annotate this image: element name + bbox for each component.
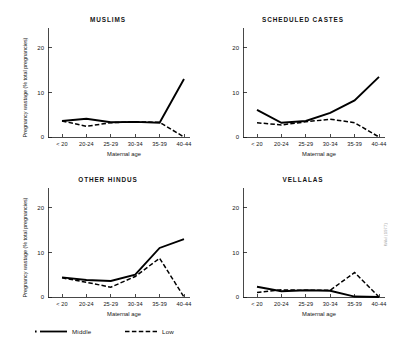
x-tick-label: < 20 [56, 301, 67, 307]
plot-area-muslims: 01020< 2020-2425-2930-3435-3940-44Matern… [18, 16, 198, 166]
x-axis-title: Maternal age [107, 151, 141, 157]
legend-item-middle: Middle [34, 327, 91, 336]
y-tick-label: 20 [232, 45, 239, 51]
y-axis-title: Pregnancy wastage (% total pregnancies) [22, 197, 28, 297]
series-line-low [62, 121, 184, 137]
x-tick-label: 35-39 [152, 141, 167, 147]
plot-area-scheduled-castes: 01020< 2020-2425-2930-3435-3940-44Matern… [213, 16, 393, 166]
x-tick-label: 20-24 [79, 301, 94, 307]
legend-label-low: Low [162, 328, 174, 335]
x-tick-label: 25-29 [103, 141, 118, 147]
y-tick-label: 0 [236, 134, 240, 140]
chart-panel-scheduled-castes: SCHEDULED CASTES 01020< 2020-2425-2930-3… [213, 16, 393, 166]
x-tick-label: 30-34 [128, 141, 143, 147]
y-tick-label: 0 [41, 294, 45, 300]
series-line-low [257, 119, 379, 137]
y-axis-title: Pregnancy wastage (% total pregnancies) [22, 37, 28, 137]
x-tick-label: 25-29 [103, 301, 118, 307]
y-tick-label: 10 [232, 250, 239, 256]
y-tick-label: 10 [37, 90, 44, 96]
x-tick-label: 40-44 [177, 141, 192, 147]
y-tick-label: 10 [37, 250, 44, 256]
x-tick-label: 30-34 [128, 301, 143, 307]
legend-item-low: Low [124, 327, 174, 336]
legend-swatch-low [124, 327, 158, 336]
legend-label-middle: Middle [72, 328, 91, 335]
x-tick-label: 35-39 [347, 301, 362, 307]
x-tick-label: 40-44 [372, 141, 387, 147]
y-tick-label: 20 [37, 205, 44, 211]
x-axis-title: Maternal age [302, 311, 336, 317]
x-tick-label: 25-29 [298, 301, 313, 307]
legend-swatch-middle [34, 327, 68, 336]
plot-area-other-hindus: 01020< 2020-2425-2930-3435-3940-44Matern… [18, 176, 198, 326]
x-tick-label: 25-29 [298, 141, 313, 147]
series-line-middle [62, 79, 184, 123]
legend: Middle Low [34, 327, 264, 345]
x-tick-label: 30-34 [323, 141, 338, 147]
series-line-middle [257, 77, 379, 123]
y-tick-label: 10 [232, 90, 239, 96]
figure-canvas: MUSLIMS 01020< 2020-2425-2930-3435-3940-… [0, 0, 417, 355]
y-tick-label: 0 [41, 134, 45, 140]
x-tick-label: 20-24 [79, 141, 94, 147]
chart-panel-muslims: MUSLIMS 01020< 2020-2425-2930-3435-3940-… [18, 16, 198, 166]
x-axis-title: Maternal age [107, 311, 141, 317]
y-tick-label: 20 [37, 45, 44, 51]
x-axis-title: Maternal age [302, 151, 336, 157]
chart-panel-vellalas: VELLALAS 01020< 2020-2425-2930-3435-3940… [213, 176, 393, 326]
series-line-middle [257, 287, 379, 297]
side-note: Wild (1977) [383, 223, 388, 246]
y-tick-label: 20 [232, 205, 239, 211]
series-line-middle [62, 239, 184, 281]
x-tick-label: 40-44 [177, 301, 192, 307]
x-tick-label: 20-24 [274, 301, 289, 307]
x-tick-label: 35-39 [347, 141, 362, 147]
x-tick-label: 20-24 [274, 141, 289, 147]
x-tick-label: < 20 [56, 141, 67, 147]
x-tick-label: < 20 [251, 301, 262, 307]
x-tick-label: 30-34 [323, 301, 338, 307]
y-tick-label: 0 [236, 294, 240, 300]
chart-panel-other-hindus: OTHER HINDUS 01020< 2020-2425-2930-3435-… [18, 176, 198, 326]
x-tick-label: 40-44 [372, 301, 387, 307]
series-line-low [257, 272, 379, 297]
x-tick-label: < 20 [251, 141, 262, 147]
x-tick-label: 35-39 [152, 301, 167, 307]
plot-area-vellalas: 01020< 2020-2425-2930-3435-3940-44Matern… [213, 176, 393, 326]
